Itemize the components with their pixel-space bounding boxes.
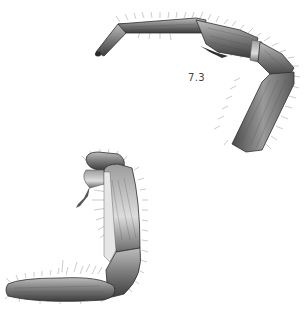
figure-label: 7.3 <box>188 72 205 83</box>
leg-illustration-figure: 7.3 <box>0 0 307 314</box>
lower-leg-illustration <box>5 149 148 304</box>
